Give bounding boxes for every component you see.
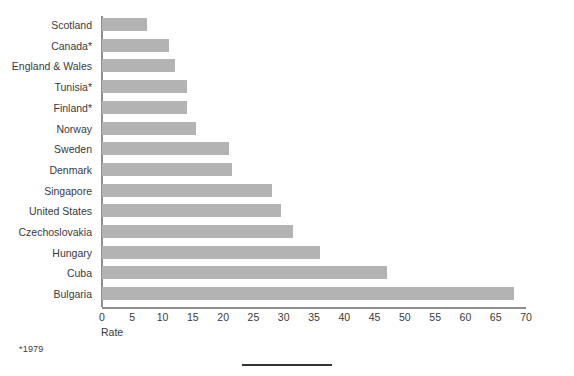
x-tick-label: 70 — [520, 310, 532, 324]
bar — [102, 246, 320, 259]
plot-area — [102, 16, 526, 306]
bar-chart-figure: ScotlandCanada*England & WalesTunisia*Fi… — [0, 0, 574, 376]
category-label: Scotland — [51, 18, 92, 32]
bar — [102, 204, 281, 217]
x-tick-label: 10 — [157, 310, 169, 324]
category-label: Singapore — [44, 184, 92, 198]
x-axis-line — [102, 307, 526, 309]
x-tick-label: 20 — [217, 310, 229, 324]
category-label: Finland* — [53, 101, 92, 115]
bar — [102, 266, 387, 279]
x-tick-label: 25 — [248, 310, 260, 324]
category-label: Czechoslovakia — [18, 225, 92, 239]
bar — [102, 39, 169, 52]
category-label: Tunisia* — [54, 80, 92, 94]
bottom-rule — [242, 364, 332, 366]
x-tick-label: 5 — [129, 310, 135, 324]
x-tick-label: 60 — [460, 310, 472, 324]
x-tick-label: 50 — [399, 310, 411, 324]
bar — [102, 142, 229, 155]
bar — [102, 122, 196, 135]
x-axis-tick-labels: 0510152025303540455055606570 — [0, 310, 574, 326]
x-tick-label: 0 — [99, 310, 105, 324]
category-label: United States — [29, 204, 92, 218]
category-label: Canada* — [51, 39, 92, 53]
bar — [102, 101, 187, 114]
category-label: England & Wales — [12, 59, 92, 73]
x-tick-label: 45 — [369, 310, 381, 324]
footnote: *1979 — [19, 344, 44, 354]
bar — [102, 163, 232, 176]
bar — [102, 287, 514, 300]
x-tick-label: 40 — [338, 310, 350, 324]
bar — [102, 18, 147, 31]
bar — [102, 80, 187, 93]
category-label: Hungary — [52, 246, 92, 260]
x-tick-label: 65 — [490, 310, 502, 324]
category-label: Cuba — [67, 266, 92, 280]
category-label: Sweden — [54, 142, 92, 156]
x-tick-label: 55 — [429, 310, 441, 324]
x-tick-label: 15 — [187, 310, 199, 324]
x-tick-label: 30 — [278, 310, 290, 324]
category-label: Norway — [56, 122, 92, 136]
x-tick-label: 35 — [308, 310, 320, 324]
bar — [102, 225, 293, 238]
category-label: Bulgaria — [53, 287, 92, 301]
x-axis-title: Rate — [101, 326, 123, 338]
category-label: Denmark — [49, 163, 92, 177]
category-label-column: ScotlandCanada*England & WalesTunisia*Fi… — [0, 16, 96, 306]
bar — [102, 184, 272, 197]
bar — [102, 59, 175, 72]
